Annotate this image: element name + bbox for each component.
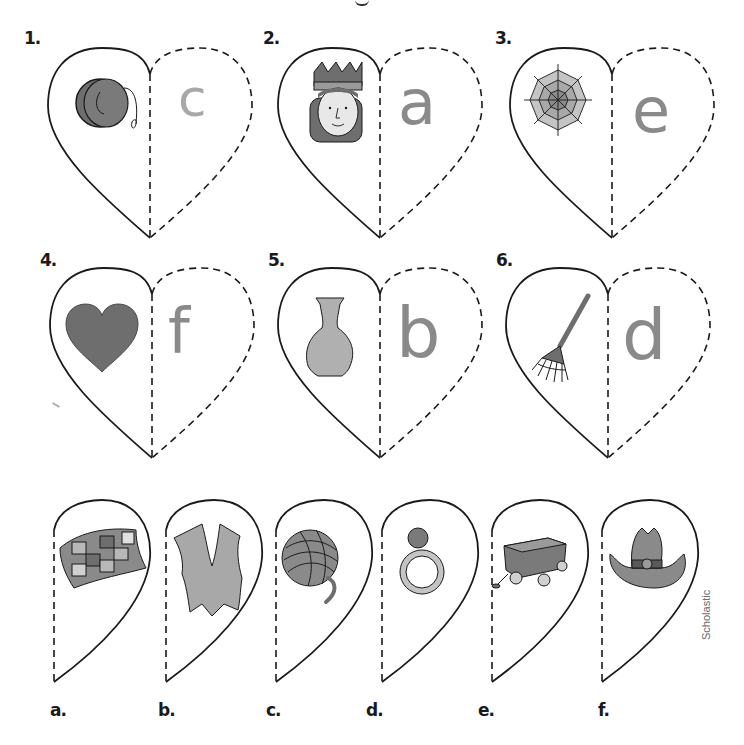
queen-icon <box>310 62 362 142</box>
cutout-e[interactable] <box>488 498 592 684</box>
cutout-label-d: d. <box>366 700 383 720</box>
cutout-label-f: f. <box>598 700 609 720</box>
yo-yo-icon <box>76 79 137 128</box>
cutout-label-e: e. <box>478 700 494 720</box>
item-number-3: 3. <box>495 28 511 48</box>
cutout-label-b: b. <box>158 700 175 720</box>
answer-6: d <box>622 300 666 370</box>
yarn-ball-icon <box>282 530 338 602</box>
vest-icon <box>174 524 242 616</box>
heart-3 <box>506 46 718 242</box>
heart-4 <box>46 266 258 462</box>
item-number-1: 1. <box>24 28 40 48</box>
cutout-label-c: c. <box>266 700 281 720</box>
heart-1 <box>44 46 256 242</box>
cutout-b[interactable] <box>162 498 266 684</box>
quilt-icon <box>60 529 146 588</box>
heart-5 <box>274 266 486 462</box>
wagon-icon <box>492 538 567 588</box>
vase-icon <box>307 298 353 376</box>
publisher-credit: Scholastic <box>700 590 712 640</box>
cutout-d[interactable] <box>378 498 482 684</box>
ring-icon <box>400 528 444 594</box>
cowboy-hat-icon <box>610 528 686 588</box>
answer-5: b <box>396 298 440 368</box>
cutout-f[interactable] <box>598 498 702 684</box>
cutout-label-a: a. <box>50 700 66 720</box>
answer-1: c <box>178 72 207 124</box>
cutout-a[interactable] <box>50 498 154 684</box>
answer-3: e <box>632 80 670 142</box>
spider-web-icon <box>524 64 592 136</box>
heart-2 <box>274 46 486 242</box>
cutout-c[interactable] <box>272 498 376 684</box>
item-number-2: 2. <box>263 28 279 48</box>
answer-4: f <box>168 300 190 362</box>
heart-6 <box>502 266 714 462</box>
answer-2: a <box>398 72 436 134</box>
heart-shape-icon <box>66 304 138 372</box>
top-page-mark <box>355 0 369 6</box>
rake-icon <box>532 296 588 382</box>
